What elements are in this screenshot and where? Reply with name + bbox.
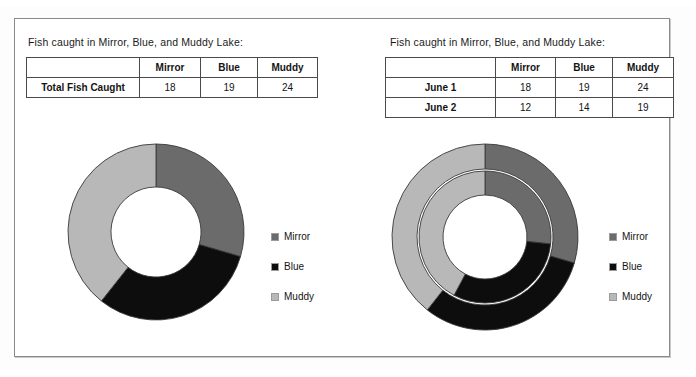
legend-swatch-mirror-icon [609, 233, 617, 241]
table-cell-muddy: 19 [613, 98, 674, 118]
table-cell-blue: 19 [201, 78, 258, 98]
legend-swatch-mirror-icon [271, 233, 279, 241]
left-doughnut-chart [61, 137, 251, 327]
legend-label-muddy: Muddy [284, 292, 314, 302]
scan-edge-bottom [0, 369, 696, 377]
table-cell-mirror: 12 [496, 98, 556, 118]
legend-label-muddy: Muddy [622, 292, 652, 302]
left-doughnut-slices [68, 144, 244, 320]
table-row: Total Fish Caught 18 19 24 [27, 78, 318, 98]
legend-label-mirror: Mirror [284, 232, 310, 242]
legend-label-blue: Blue [622, 262, 642, 272]
left-chart-panel: Fish caught in Mirror, Blue, and Muddy L… [15, 19, 363, 356]
table-header-mirror: Mirror [140, 58, 201, 78]
legend-item-mirror: Mirror [271, 222, 314, 252]
legend-item-blue: Blue [271, 252, 314, 282]
worksheet-frame: Fish caught in Mirror, Blue, and Muddy L… [14, 18, 670, 357]
table-header-row: Mirror Blue Muddy [27, 58, 318, 78]
table-row-label: Total Fish Caught [27, 78, 140, 98]
right-chart-legend: Mirror Blue Muddy [609, 222, 652, 312]
table-header-muddy: Muddy [613, 58, 674, 78]
scan-edge-top [0, 0, 696, 6]
table-header-mirror: Mirror [496, 58, 556, 78]
legend-item-muddy: Muddy [609, 282, 652, 312]
table-row-label-june-1: June 1 [386, 78, 496, 98]
table-header-blue: Blue [201, 58, 258, 78]
doughnut-slice [156, 144, 244, 257]
left-data-table: Mirror Blue Muddy Total Fish Caught 18 1… [26, 57, 318, 98]
table-cell-mirror: 18 [496, 78, 556, 98]
table-row: June 1 18 19 24 [386, 78, 674, 98]
legend-label-blue: Blue [284, 262, 304, 272]
legend-label-mirror: Mirror [622, 232, 648, 242]
table-cell-muddy: 24 [613, 78, 674, 98]
left-chart-title: Fish caught in Mirror, Blue, and Muddy L… [28, 36, 243, 48]
legend-swatch-blue-icon [609, 263, 617, 271]
left-chart-legend: Mirror Blue Muddy [271, 222, 314, 312]
screenshot-canvas: Fish caught in Mirror, Blue, and Muddy L… [0, 0, 696, 377]
legend-swatch-muddy-icon [271, 293, 279, 301]
table-cell-blue: 19 [556, 78, 613, 98]
table-row-label-june-2: June 2 [386, 98, 496, 118]
table-row: June 2 12 14 19 [386, 98, 674, 118]
table-header-blue: Blue [556, 58, 613, 78]
right-chart-title: Fish caught in Mirror, Blue, and Muddy L… [390, 36, 605, 48]
legend-item-mirror: Mirror [609, 222, 652, 252]
table-header-row: Mirror Blue Muddy [386, 58, 674, 78]
table-cell-blue: 14 [556, 98, 613, 118]
left-doughnut-svg [61, 137, 251, 327]
doughnut-slice [101, 245, 240, 320]
legend-item-blue: Blue [609, 252, 652, 282]
table-cell-mirror: 18 [140, 78, 201, 98]
right-chart-panel: Fish caught in Mirror, Blue, and Muddy L… [363, 19, 671, 356]
right-data-table: Mirror Blue Muddy June 1 18 19 24 June 2… [385, 57, 674, 118]
legend-item-muddy: Muddy [271, 282, 314, 312]
right-doughnut-inner-ring [419, 171, 551, 303]
right-doughnut-svg [385, 137, 585, 337]
legend-swatch-blue-icon [271, 263, 279, 271]
table-header-muddy: Muddy [258, 58, 318, 78]
table-corner-cell [386, 58, 496, 78]
right-doughnut-chart [385, 137, 585, 337]
table-cell-muddy: 24 [258, 78, 318, 98]
legend-swatch-muddy-icon [609, 293, 617, 301]
table-corner-cell [27, 58, 140, 78]
